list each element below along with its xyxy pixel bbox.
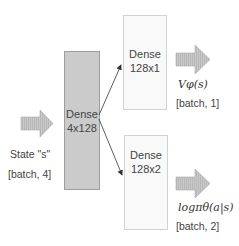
- policy-output-label: logπθ(a|s): [178, 201, 234, 214]
- input-label: State "s": [10, 148, 50, 160]
- policy-output-shape: [batch, 2]: [176, 220, 219, 232]
- edge-to-policy-head: [99, 119, 122, 175]
- value-output-label: Vφ(s): [178, 78, 208, 91]
- edge-to-value-head: [99, 65, 121, 115]
- value-output-shape: [batch, 1]: [176, 97, 219, 109]
- input-shape: [batch, 4]: [8, 168, 51, 180]
